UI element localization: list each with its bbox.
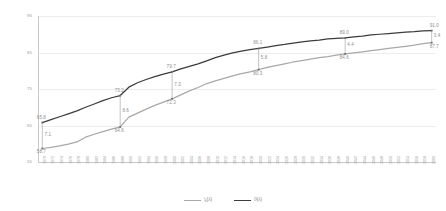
legend-item[interactable]: 남자 <box>184 198 212 203</box>
x-tick-label: 2024 <box>277 156 281 164</box>
x-tick-label: 2000 <box>174 156 178 164</box>
female-value-label: 89.0 <box>340 31 349 36</box>
x-tick-label: 2058 <box>424 156 428 164</box>
female-value-label: 73.2 <box>115 89 124 94</box>
male-value-label: 64.6 <box>115 129 124 134</box>
male-value-label: 84.6 <box>340 56 349 61</box>
x-tick-label: 2014 <box>234 156 238 164</box>
x-tick-label: 2010 <box>217 156 221 164</box>
x-tick-label: 2022 <box>269 156 273 164</box>
x-tick-label: 1984 <box>104 156 108 164</box>
gap-value-label: 4.4 <box>347 43 354 48</box>
legend-label: 여자 <box>254 198 262 203</box>
female-value-label: 79.7 <box>167 65 176 70</box>
legend-label: 남자 <box>204 198 212 203</box>
x-tick-label: 2004 <box>191 156 195 164</box>
x-tick-label: 2060 <box>433 156 437 164</box>
male-value-label: 58.7 <box>37 150 46 155</box>
gap-value-label: 5.8 <box>261 56 268 61</box>
legend-swatch <box>184 200 201 201</box>
x-tick-label: 2032 <box>312 156 316 164</box>
male-value-label: 87.7 <box>430 45 439 50</box>
x-axis-tick-labels: 1970197219741976197819801982198419861988… <box>38 164 436 190</box>
gridline <box>38 126 436 127</box>
legend-swatch <box>234 200 251 201</box>
x-tick-label: 2046 <box>373 156 377 164</box>
x-tick-label: 1970 <box>44 156 48 164</box>
x-tick-label: 1988 <box>122 156 126 164</box>
x-tick-label: 1990 <box>130 156 134 164</box>
x-tick-label: 2056 <box>416 156 420 164</box>
gridline <box>38 89 436 90</box>
y-tick-label: 75 <box>2 86 32 91</box>
x-tick-label: 2036 <box>329 156 333 164</box>
x-tick-label: 2052 <box>398 156 402 164</box>
x-tick-label: 1972 <box>52 156 56 164</box>
gridline <box>38 53 436 54</box>
x-tick-label: 2054 <box>407 156 411 164</box>
x-tick-label: 1980 <box>87 156 91 164</box>
x-tick-label: 1996 <box>156 156 160 164</box>
x-tick-label: 2002 <box>182 156 186 164</box>
x-tick-label: 2050 <box>390 156 394 164</box>
x-tick-label: 2028 <box>295 156 299 164</box>
x-tick-label: 2016 <box>243 156 247 164</box>
x-tick-label: 2006 <box>199 156 203 164</box>
female-value-label: 91.0 <box>430 24 439 29</box>
gap-value-label: 7.1 <box>45 133 52 138</box>
x-tick-label: 1998 <box>165 156 169 164</box>
female-value-label: 65.8 <box>37 116 46 121</box>
y-tick-label: 65 <box>2 123 32 128</box>
x-tick-label: 1978 <box>78 156 82 164</box>
x-tick-label: 2042 <box>355 156 359 164</box>
x-tick-label: 2044 <box>364 156 368 164</box>
x-tick-label: 2026 <box>286 156 290 164</box>
male-value-label: 80.3 <box>253 72 262 77</box>
x-tick-label: 1986 <box>113 156 117 164</box>
legend-item[interactable]: 여자 <box>234 198 262 203</box>
x-tick-label: 1982 <box>96 156 100 164</box>
x-tick-label: 1994 <box>148 156 152 164</box>
x-tick-label: 2018 <box>251 156 255 164</box>
x-tick-label: 2008 <box>208 156 212 164</box>
x-tick-label: 2020 <box>260 156 264 164</box>
gridline <box>38 16 436 17</box>
y-tick-label: 55 <box>2 159 32 164</box>
gap-value-label: 3.4 <box>434 34 441 39</box>
x-tick-label: 2038 <box>338 156 342 164</box>
gap-value-label: 7.3 <box>174 83 181 88</box>
female-value-label: 86.1 <box>253 41 262 46</box>
x-tick-label: 2048 <box>381 156 385 164</box>
male-value-label: 72.3 <box>167 101 176 106</box>
x-tick-label: 2030 <box>303 156 307 164</box>
gap-value-label: 8.6 <box>122 109 129 114</box>
x-tick-label: 2012 <box>225 156 229 164</box>
plot-area <box>38 16 436 162</box>
x-tick-label: 1992 <box>139 156 143 164</box>
x-tick-label: 1974 <box>61 156 65 164</box>
y-tick-label: 85 <box>2 50 32 55</box>
x-tick-label: 2034 <box>321 156 325 164</box>
y-tick-label: 95 <box>2 13 32 18</box>
x-tick-label: 2040 <box>347 156 351 164</box>
x-tick-label: 1976 <box>70 156 74 164</box>
line-chart: 9585756555 19701972197419761978198019821… <box>0 0 446 211</box>
y-axis-line <box>38 16 39 163</box>
legend: 남자여자 <box>0 193 446 207</box>
